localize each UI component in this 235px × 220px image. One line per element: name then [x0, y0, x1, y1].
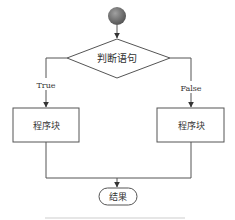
cropped-caption	[45, 217, 185, 219]
start-node	[108, 7, 126, 25]
false-label: False	[180, 84, 201, 93]
process-block-true-label: 程序块	[33, 120, 60, 131]
process-block-false-label: 程序块	[178, 120, 205, 131]
flowchart: 判断语句 True False 程序块 程序块 结果	[0, 0, 235, 220]
true-label: True	[36, 81, 55, 90]
connector-merge	[46, 142, 191, 178]
decision-label: 判断语句	[97, 52, 137, 64]
end-label: 结果	[109, 191, 127, 202]
